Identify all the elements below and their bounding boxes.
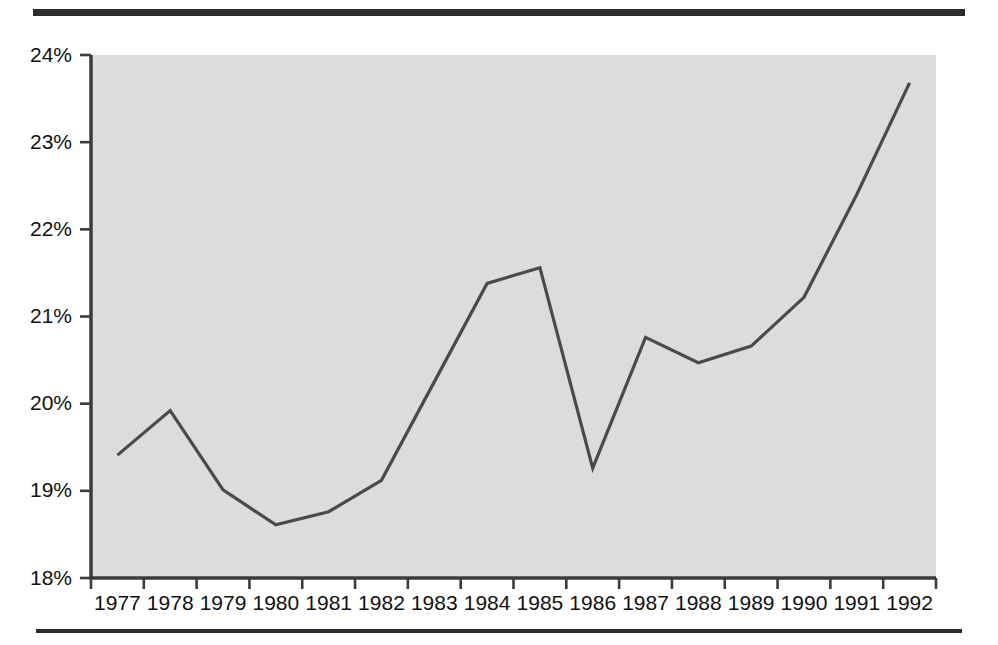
x-axis-tick-label: 1990 [781, 591, 828, 614]
figure-container: 18%19%20%21%22%23%24% 197719781979198019… [0, 0, 998, 645]
x-axis-tick-label: 1981 [305, 591, 352, 614]
y-axis-tick-label: 19% [30, 478, 72, 501]
plot-area-background [91, 55, 936, 578]
y-axis-tick-label: 18% [30, 566, 72, 589]
x-axis-tick-label: 1988 [675, 591, 722, 614]
y-axis-labels: 18%19%20%21%22%23%24% [30, 43, 72, 589]
x-axis-tick-label: 1991 [833, 591, 880, 614]
line-chart: 18%19%20%21%22%23%24% 197719781979198019… [0, 0, 998, 645]
x-axis-tick-label: 1979 [200, 591, 247, 614]
y-axis-tick-label: 23% [30, 130, 72, 153]
y-axis-tick-label: 20% [30, 391, 72, 414]
x-axis-tick-label: 1983 [411, 591, 458, 614]
x-axis-labels: 1977197819791980198119821983198419851986… [94, 591, 933, 614]
x-axis-tick-label: 1989 [728, 591, 775, 614]
bottom-rule-divider [36, 629, 962, 633]
x-axis-tick-label: 1977 [94, 591, 141, 614]
x-axis-tick-label: 1980 [252, 591, 299, 614]
x-axis-tick-label: 1992 [886, 591, 933, 614]
y-axis-tick-label: 21% [30, 304, 72, 327]
x-axis-tick-label: 1986 [569, 591, 616, 614]
x-axis-tick-label: 1987 [622, 591, 669, 614]
y-axis-tick-label: 22% [30, 217, 72, 240]
y-axis-tick-label: 24% [30, 43, 72, 66]
x-axis-tick-label: 1978 [147, 591, 194, 614]
x-axis-tick-label: 1985 [517, 591, 564, 614]
x-axis-tick-label: 1982 [358, 591, 405, 614]
chart-svg: 18%19%20%21%22%23%24% 197719781979198019… [0, 0, 998, 645]
x-axis-tick-label: 1984 [464, 591, 511, 614]
